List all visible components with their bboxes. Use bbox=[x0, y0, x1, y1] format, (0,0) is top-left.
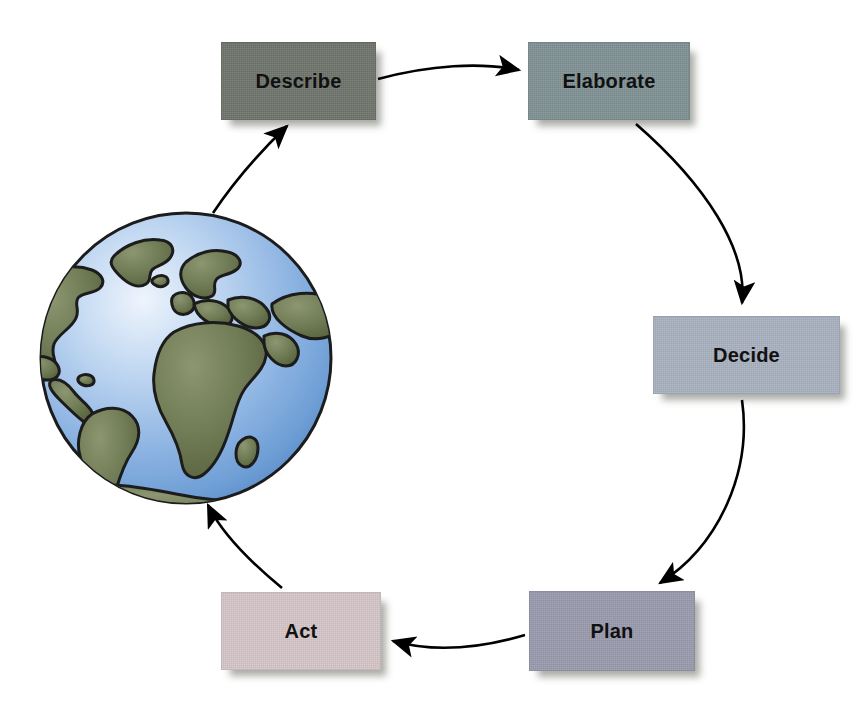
arrow-decide-to-plan bbox=[660, 400, 744, 583]
arrow-elaborate-to-decide bbox=[636, 124, 743, 303]
node-decide-label: Decide bbox=[713, 344, 780, 367]
earth-globe-icon bbox=[36, 208, 336, 508]
node-elaborate-label: Elaborate bbox=[563, 70, 656, 93]
arrow-plan-to-act bbox=[393, 635, 525, 648]
node-elaborate[interactable]: Elaborate bbox=[528, 42, 690, 120]
node-act-label: Act bbox=[285, 620, 318, 643]
arrow-globe-to-describe bbox=[213, 126, 287, 213]
node-decide[interactable]: Decide bbox=[653, 316, 840, 394]
node-describe-label: Describe bbox=[255, 70, 341, 93]
node-describe[interactable]: Describe bbox=[221, 42, 376, 120]
node-plan[interactable]: Plan bbox=[529, 591, 695, 671]
arrow-describe-to-elaborate bbox=[378, 66, 519, 79]
node-act[interactable]: Act bbox=[221, 592, 381, 670]
node-plan-label: Plan bbox=[590, 620, 633, 643]
diagram-canvas: Describe Elaborate Decide Plan Act bbox=[0, 0, 866, 701]
arrow-act-to-globe bbox=[208, 505, 282, 588]
